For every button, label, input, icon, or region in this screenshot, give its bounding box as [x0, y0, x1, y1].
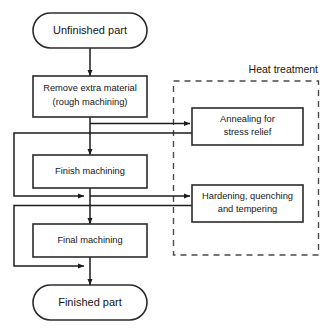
- node-annealing[interactable]: Annealing for stress relief: [192, 108, 303, 145]
- heat-treatment-label: Heat treatment: [249, 63, 319, 75]
- unfinished-part-label: Unfinished part: [53, 24, 127, 36]
- hardening-label-line2: and tempering: [218, 204, 277, 214]
- node-finished-part[interactable]: Finished part: [33, 285, 147, 320]
- node-final-machining[interactable]: Final machining: [33, 224, 147, 257]
- annealing-label-line2: stress relief: [224, 127, 272, 137]
- finished-part-label: Finished part: [58, 296, 122, 308]
- heat-treatment-group: Heat treatment: [174, 63, 319, 255]
- node-rough-machining[interactable]: Remove extra material (rough machining): [33, 76, 147, 117]
- node-unfinished-part[interactable]: Unfinished part: [33, 13, 147, 48]
- flowchart-canvas: Heat treatment Unfinished part: [0, 0, 331, 332]
- finish-machining-label: Finish machining: [55, 166, 125, 176]
- heat-treatment-boundary: [174, 81, 319, 255]
- final-machining-label: Final machining: [57, 235, 122, 245]
- node-hardening[interactable]: Hardening, quenching and tempering: [192, 185, 303, 222]
- hardening-label-line1: Hardening, quenching: [202, 191, 293, 201]
- annealing-label-line1: Annealing for: [220, 114, 275, 124]
- rough-machining-label-line2: (rough machining): [53, 97, 128, 107]
- node-finish-machining[interactable]: Finish machining: [33, 155, 147, 188]
- rough-machining-label-line1: Remove extra material: [43, 83, 137, 93]
- flowchart-svg: Heat treatment Unfinished part: [0, 0, 331, 332]
